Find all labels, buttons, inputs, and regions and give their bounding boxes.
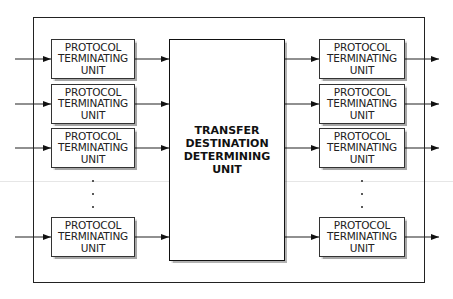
left-ellipsis-dot xyxy=(92,180,94,182)
central-label-line: DETERMINING xyxy=(184,150,271,163)
right-protocol-terminating-unit-3: PROTOCOL TERMINATING UNIT xyxy=(319,128,405,168)
unit-label-line: UNIT xyxy=(350,65,374,77)
unit-label-line: UNIT xyxy=(350,243,374,255)
left-protocol-terminating-unit-2: PROTOCOL TERMINATING UNIT xyxy=(51,84,135,124)
left-protocol-terminating-unit-n: PROTOCOL TERMINATING UNIT xyxy=(51,217,135,257)
left-protocol-terminating-unit-1: PROTOCOL TERMINATING UNIT xyxy=(51,39,135,79)
unit-label-line: UNIT xyxy=(81,154,105,166)
unit-label-line: UNIT xyxy=(350,154,374,166)
central-label-line: UNIT xyxy=(212,163,242,176)
right-ellipsis-dot xyxy=(361,193,363,195)
transfer-destination-determining-unit: TRANSFER DESTINATION DETERMINING UNIT xyxy=(169,39,285,261)
unit-label-line: UNIT xyxy=(81,243,105,255)
left-ellipsis-dot xyxy=(92,193,94,195)
right-ellipsis-dot xyxy=(361,206,363,208)
unit-label-line: UNIT xyxy=(81,65,105,77)
right-protocol-terminating-unit-1: PROTOCOL TERMINATING UNIT xyxy=(319,39,405,79)
left-protocol-terminating-unit-3: PROTOCOL TERMINATING UNIT xyxy=(51,128,135,168)
central-label-line: DESTINATION xyxy=(185,137,268,150)
right-protocol-terminating-unit-n: PROTOCOL TERMINATING UNIT xyxy=(319,217,405,257)
left-ellipsis-dot xyxy=(92,206,94,208)
central-label-line: TRANSFER xyxy=(194,124,259,137)
right-ellipsis-dot xyxy=(361,180,363,182)
unit-label-line: UNIT xyxy=(81,110,105,122)
right-protocol-terminating-unit-2: PROTOCOL TERMINATING UNIT xyxy=(319,84,405,124)
unit-label-line: UNIT xyxy=(350,110,374,122)
